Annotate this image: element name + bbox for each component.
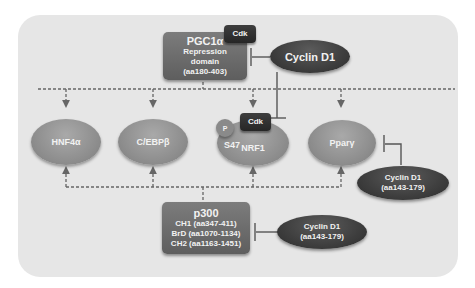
cyclin-d1-right-line1: Cyclin D1 (385, 173, 421, 183)
p300-domain-ch2: CH2 (aa1163-1451) (171, 239, 241, 249)
cyclin-d1-bottom-ellipse: Cyclin D1 (aa143-179) (277, 215, 367, 249)
cyclin-d1-right-line2: (aa143-179) (381, 183, 425, 193)
nrf1-label: NRF1 (241, 143, 265, 154)
p300-title: p300 (193, 207, 218, 219)
cebpb-label: C/EBPβ (137, 137, 170, 148)
ppary-ellipse: Pparγ (308, 120, 376, 166)
hnf4a-ellipse: HNF4α (31, 119, 101, 165)
phospho-label: P (223, 125, 228, 132)
nrf1-cdk-label: Cdk (248, 117, 263, 127)
pgc1a-cdk-box: Cdk (224, 25, 256, 43)
cyclin-d1-right-ellipse: Cyclin D1 (aa143-179) (357, 166, 449, 200)
pgc1a-line2: domain (191, 57, 219, 67)
nrf1-cdk-box: Cdk (240, 113, 271, 131)
pgc1a-line3: (aa180-403) (183, 67, 227, 77)
ppary-label: Pparγ (329, 138, 354, 149)
cyclin-d1-bottom-line1: Cyclin D1 (304, 222, 340, 232)
p300-domain-ch1: CH1 (aa347-411) (175, 219, 236, 229)
nrf1-site-label: S47 (224, 140, 240, 150)
pgc1a-cdk-label: Cdk (232, 29, 247, 39)
cyclin-d1-top-label: Cyclin D1 (285, 51, 335, 63)
p300-domain-brd: BrD (aa1070-1134) (172, 229, 241, 239)
pgc1a-line1: Repression (183, 47, 227, 57)
phospho-circle: P (216, 119, 234, 137)
hnf4a-label: HNF4α (51, 137, 80, 148)
p300-box: p300 CH1 (aa347-411) BrD (aa1070-1134) C… (162, 202, 250, 254)
cyclin-d1-top-ellipse: Cyclin D1 (270, 40, 350, 73)
pgc1a-title: PGC1α (187, 35, 224, 47)
cyclin-d1-bottom-line2: (aa143-179) (300, 232, 344, 242)
cebpb-ellipse: C/EBPβ (118, 119, 188, 165)
